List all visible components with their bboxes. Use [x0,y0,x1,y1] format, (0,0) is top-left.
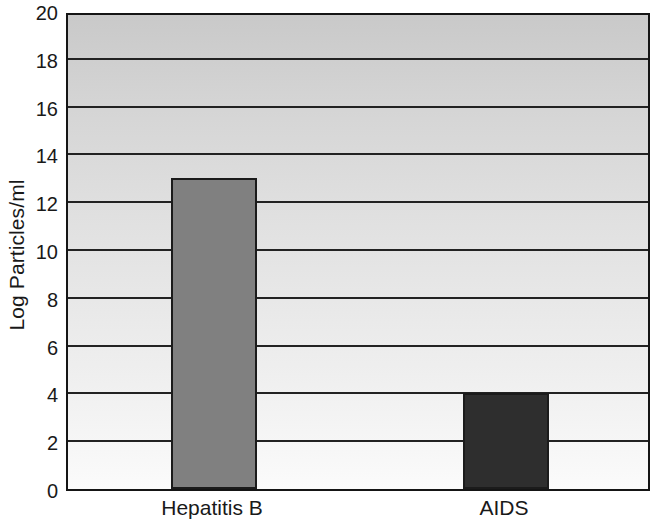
bar-chart-figure: Log Particles/ml 02468101214161820 Hepat… [0,0,657,522]
y-axis-tick-label: 2 [0,433,58,453]
y-axis-tick-label: 4 [0,385,58,405]
y-axis-tick-label: 20 [0,3,58,23]
bar-hepatitis-b [171,178,257,489]
x-axis-tick-label: Hepatitis B [161,495,263,521]
y-axis-tick-label: 18 [0,51,58,71]
y-axis-tick-label: 10 [0,242,58,262]
x-axis-tick-label: AIDS [479,495,528,521]
y-axis-tick-label: 8 [0,290,58,310]
y-axis-tick-label: 6 [0,338,58,358]
y-axis-tick-label: 14 [0,146,58,166]
x-axis-tick-labels: Hepatitis BAIDS [0,495,657,522]
y-axis-tick-label: 16 [0,99,58,119]
y-axis-tick-labels: 02468101214161820 [0,0,58,522]
plot-area [66,13,650,491]
bar-aids [463,393,549,489]
y-axis-tick-label: 12 [0,194,58,214]
bars-layer [68,15,648,489]
